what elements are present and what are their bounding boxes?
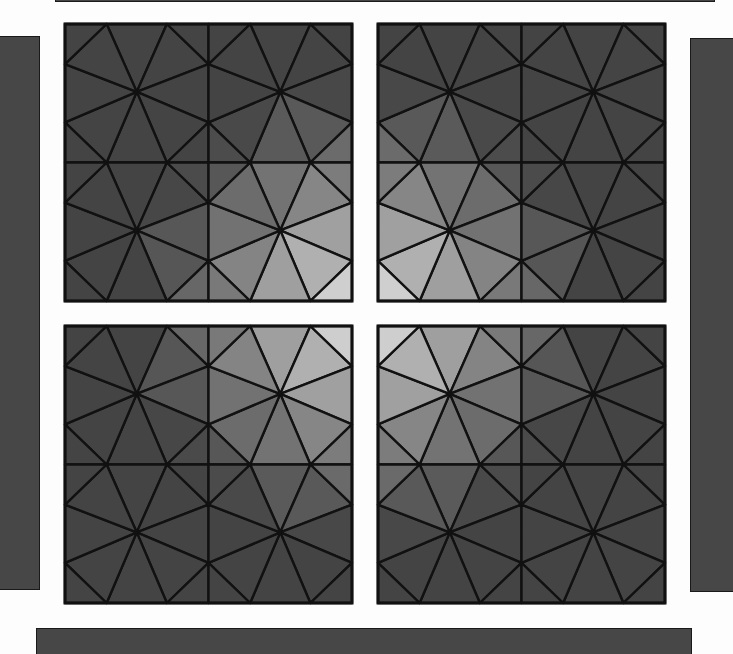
panel-top-right (378, 24, 665, 301)
quilt-artwork (0, 0, 733, 654)
panel-bottom-right (378, 326, 665, 603)
panel-top-left (65, 24, 352, 301)
panel-bottom-left (65, 326, 352, 603)
triangle-pattern (0, 0, 733, 654)
